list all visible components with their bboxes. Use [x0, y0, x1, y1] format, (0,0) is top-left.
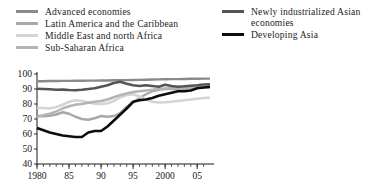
chart-plot-area: 405060708090100 1980859095200005 [0, 66, 383, 191]
legend-item-middle-east-north-africa: Middle East and north Africa [16, 30, 211, 41]
svg-text:2000: 2000 [156, 170, 175, 181]
legend-label-newly-industrialized-asian-economies: Newly industrialized Asian economies [251, 6, 380, 28]
svg-text:100: 100 [18, 68, 33, 79]
svg-text:90: 90 [22, 83, 32, 94]
chart-series-group [37, 79, 210, 137]
x-axis-ticks [37, 164, 197, 169]
legend-label-sub-saharan-africa: Sub-Saharan Africa [45, 42, 124, 53]
legend-item-developing-asia: Developing Asia [222, 29, 380, 40]
y-axis: 405060708090100 [18, 68, 37, 169]
legend-label-middle-east-north-africa: Middle East and north Africa [45, 30, 162, 41]
legend-swatch-advanced-economies [16, 10, 38, 13]
svg-text:05: 05 [192, 170, 202, 181]
legend-item-newly-industrialized-asian-economies: Newly industrialized Asian economies [222, 6, 380, 28]
svg-text:70: 70 [22, 113, 32, 124]
series-line-advanced-economies [37, 79, 210, 82]
legend-column-right: Newly industrialized Asian economies Dev… [222, 6, 380, 41]
chart-figure: Advanced economies Latin America and the… [0, 0, 383, 191]
x-axis-tick-labels: 1980859095200005 [27, 170, 202, 181]
legend-swatch-middle-east-north-africa [16, 34, 38, 37]
y-axis-tick-labels: 405060708090100 [18, 68, 33, 169]
legend-item-advanced-economies: Advanced economies [16, 6, 211, 17]
legend-swatch-newly-industrialized-asian-economies [222, 10, 244, 13]
legend-column-left: Advanced economies Latin America and the… [16, 6, 211, 54]
chart-legend: Advanced economies Latin America and the… [0, 6, 383, 64]
svg-text:95: 95 [128, 170, 138, 181]
svg-text:85: 85 [64, 170, 74, 181]
series-line-middle-east-and-north-africa [37, 94, 210, 108]
x-axis: 1980859095200005 [27, 164, 214, 181]
legend-label-developing-asia: Developing Asia [251, 29, 318, 40]
legend-item-sub-saharan-africa: Sub-Saharan Africa [16, 42, 211, 53]
svg-text:90: 90 [96, 170, 106, 181]
svg-text:50: 50 [22, 143, 32, 154]
svg-text:60: 60 [22, 128, 32, 139]
chart-svg: 405060708090100 1980859095200005 [0, 66, 383, 191]
legend-label-latin-america: Latin America and the Caribbean [45, 18, 178, 29]
legend-swatch-developing-asia [222, 33, 244, 36]
svg-text:80: 80 [22, 98, 32, 109]
svg-text:1980: 1980 [27, 170, 46, 181]
svg-text:40: 40 [22, 158, 32, 169]
legend-label-advanced-economies: Advanced economies [45, 6, 131, 17]
legend-swatch-sub-saharan-africa [16, 46, 38, 49]
legend-swatch-latin-america [16, 22, 38, 25]
legend-item-latin-america: Latin America and the Caribbean [16, 18, 211, 29]
